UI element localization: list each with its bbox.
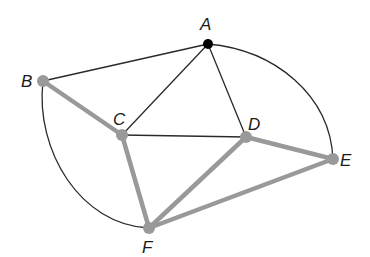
vertex-b <box>37 75 49 87</box>
thin-edges <box>42 44 333 228</box>
label-f: F <box>142 238 154 257</box>
edge-b-c <box>43 81 122 135</box>
vertex-a <box>203 39 213 49</box>
vertex-e <box>327 153 339 165</box>
label-e: E <box>340 151 352 170</box>
edge-f-d <box>149 137 246 228</box>
label-d: D <box>248 115 260 134</box>
label-c: C <box>113 110 126 129</box>
edge-a-d <box>208 44 246 137</box>
label-a: A <box>199 15 211 34</box>
graph-diagram: A B C D E F <box>0 0 370 257</box>
edge-d-e <box>246 137 333 159</box>
vertex-c <box>116 129 128 141</box>
graph-canvas: A B C D E F <box>0 0 370 257</box>
edge-a-c <box>122 44 208 135</box>
edge-c-f <box>122 135 149 228</box>
label-b: B <box>21 72 32 91</box>
edge-a-b <box>43 44 208 81</box>
vertex-f <box>143 222 155 234</box>
edge-f-e <box>149 159 333 228</box>
edge-c-d <box>122 135 246 137</box>
edge-b-f-curved <box>42 81 149 228</box>
highlighted-edges <box>43 81 333 228</box>
